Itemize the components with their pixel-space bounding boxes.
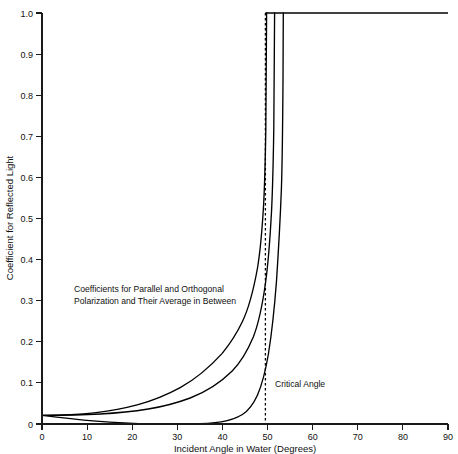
y-tick-label: 0.2 (20, 337, 33, 347)
x-tick-label: 30 (172, 432, 182, 442)
x-tick-label: 50 (263, 432, 273, 442)
y-axis-tick-labels: 1.0 0.9 0.8 0.7 0.6 0.5 0.4 0.3 0.2 0.1 … (20, 9, 33, 430)
curve-orthogonal-polarization (42, 13, 267, 415)
x-tick-label: 0 (39, 432, 44, 442)
x-tick-label: 90 (443, 432, 453, 442)
y-tick-label: 0.7 (20, 132, 33, 142)
y-tick-label: 0 (28, 420, 33, 430)
x-axis: 0 10 20 30 40 50 60 70 80 90 Incident An… (39, 424, 453, 454)
x-tick-label: 60 (308, 432, 318, 442)
x-tick-label: 20 (127, 432, 137, 442)
curve-average-polarization (42, 13, 275, 415)
y-tick-label: 0.1 (20, 378, 33, 388)
curves-annotation-line-2: Polarization and Their Average in Betwee… (74, 296, 236, 306)
y-axis-ticks (36, 13, 42, 424)
y-tick-label: 0.4 (20, 255, 33, 265)
critical-angle-annotation: Critical Angle (275, 379, 325, 389)
x-axis-tick-labels: 0 10 20 30 40 50 60 70 80 90 (39, 432, 453, 442)
plot-curves (42, 13, 448, 424)
reflection-coefficient-chart: 1.0 0.9 0.8 0.7 0.6 0.5 0.4 0.3 0.2 0.1 … (0, 0, 458, 454)
curves-annotation: Coefficients for Parallel and Orthogonal… (74, 284, 236, 306)
x-tick-label: 70 (353, 432, 363, 442)
y-tick-label: 0.3 (20, 296, 33, 306)
chart-canvas: 1.0 0.9 0.8 0.7 0.6 0.5 0.4 0.3 0.2 0.1 … (0, 0, 458, 454)
y-tick-label: 0.6 (20, 173, 33, 183)
x-axis-title: Incident Angle in Water (Degrees) (174, 443, 316, 454)
y-axis-title: Coefficient for Reflected Light (4, 155, 15, 280)
y-tick-label: 1.0 (20, 9, 33, 19)
x-axis-ticks (42, 424, 448, 430)
y-tick-label: 0.5 (20, 214, 33, 224)
x-tick-label: 80 (398, 432, 408, 442)
curves-annotation-line-1: Coefficients for Parallel and Orthogonal (74, 284, 224, 294)
x-tick-label: 10 (82, 432, 92, 442)
critical-angle-annotation-label: Critical Angle (275, 379, 325, 389)
curve-parallel-polarization (42, 13, 283, 424)
x-tick-label: 40 (217, 432, 227, 442)
y-axis: 1.0 0.9 0.8 0.7 0.6 0.5 0.4 0.3 0.2 0.1 … (4, 9, 42, 430)
y-tick-label: 0.9 (20, 50, 33, 60)
y-tick-label: 0.8 (20, 91, 33, 101)
